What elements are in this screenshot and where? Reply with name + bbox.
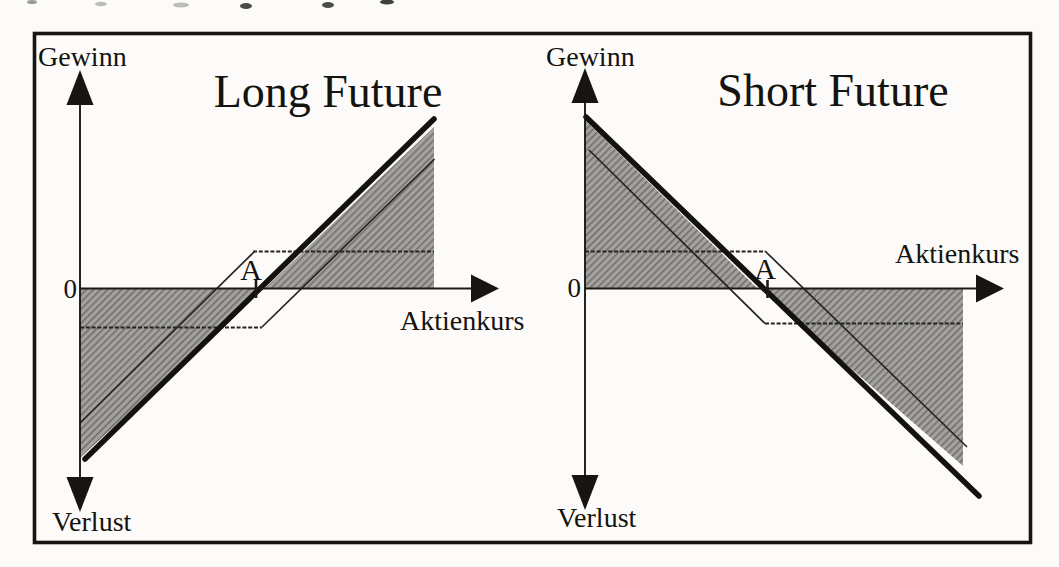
panel-title: Short Future	[717, 65, 948, 116]
gain-axis-label: Gewinn	[546, 41, 635, 72]
scanned-figure-page: Long Future Gewinn Verlust 0 A Aktienkur…	[0, 0, 1059, 567]
loss-axis-label: Verlust	[557, 502, 637, 533]
origin-label: 0	[64, 274, 78, 304]
x-axis-label: Aktienkurs	[895, 238, 1019, 269]
panel-title: Long Future	[214, 66, 443, 117]
x-axis-label: Aktienkurs	[400, 305, 524, 336]
loss-axis-label: Verlust	[52, 506, 132, 537]
scan-artifact	[27, 0, 37, 4]
scan-artifact	[322, 2, 334, 8]
scan-artifact	[173, 3, 189, 8]
gain-axis-label: Gewinn	[38, 41, 127, 72]
payoff-diagram-svg: Long Future Gewinn Verlust 0 A Aktienkur…	[0, 0, 1059, 567]
scan-artifact	[95, 2, 107, 6]
price-a-label: A	[754, 252, 776, 285]
price-a-label: A	[240, 253, 262, 286]
scan-artifact	[240, 3, 252, 9]
origin-label: 0	[568, 273, 582, 303]
